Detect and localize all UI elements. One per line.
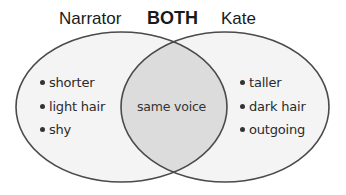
venn-diagram: Narrator BOTH Kate shorter light hair sh… (0, 0, 346, 195)
heading-both: BOTH (147, 8, 198, 28)
trait-text: light hair (49, 99, 105, 114)
list-item: dark hair (240, 97, 306, 121)
shared-trait: same voice (137, 99, 206, 114)
bullet-icon (40, 127, 45, 132)
trait-text: taller (249, 75, 281, 90)
narrator-traits-list: shorter light hair shy (40, 73, 105, 144)
list-item: shorter (40, 73, 105, 97)
heading-narrator: Narrator (59, 9, 121, 29)
bullet-icon (40, 104, 45, 109)
bullet-icon (240, 104, 245, 109)
bullet-icon (240, 127, 245, 132)
list-item: outgoing (240, 120, 306, 144)
bullet-icon (240, 80, 245, 85)
trait-text: outgoing (249, 122, 305, 137)
trait-text: shorter (49, 75, 94, 90)
heading-kate: Kate (221, 9, 256, 29)
trait-text: dark hair (249, 99, 306, 114)
trait-text: shy (49, 122, 71, 137)
list-item: shy (40, 120, 105, 144)
kate-traits-list: taller dark hair outgoing (240, 73, 306, 144)
list-item: taller (240, 73, 306, 97)
bullet-icon (40, 80, 45, 85)
list-item: light hair (40, 97, 105, 121)
